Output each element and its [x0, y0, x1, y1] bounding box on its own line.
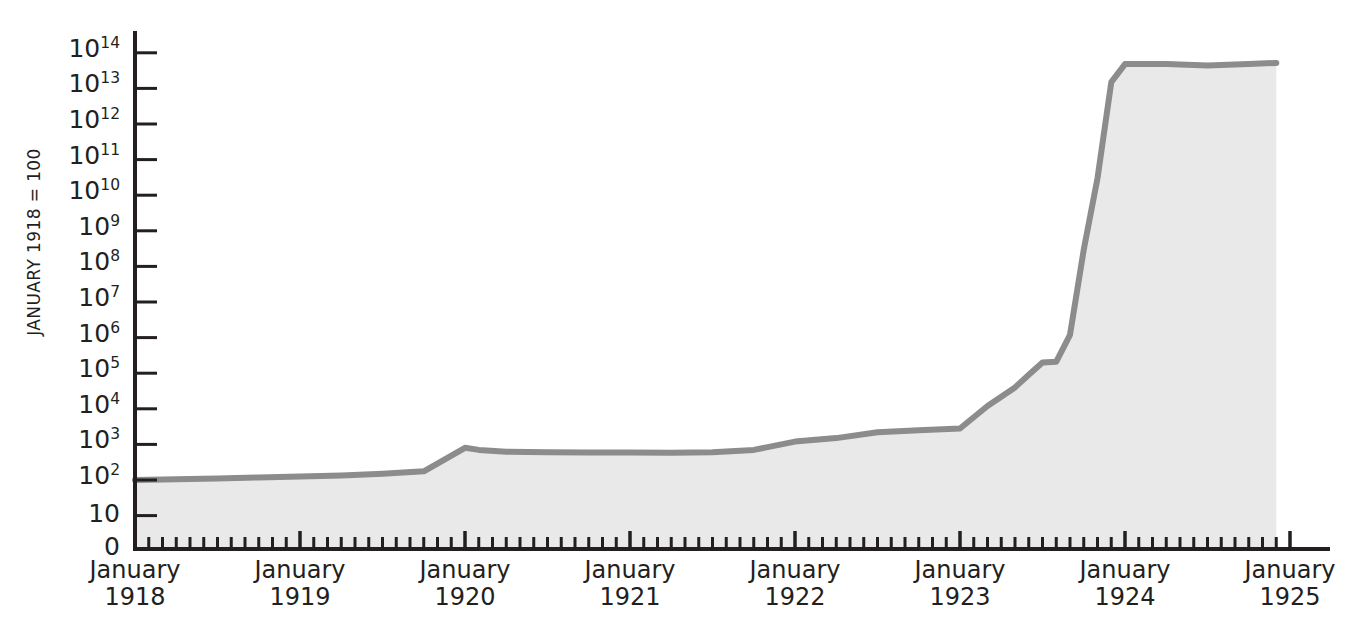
y-axis-tick-label: 109 — [0, 214, 120, 239]
x-axis-tick-label: January1918 — [45, 557, 225, 611]
x-tick-month: January — [1245, 556, 1336, 584]
x-axis-tick-label: January1920 — [375, 557, 555, 611]
x-tick-year: 1918 — [45, 584, 225, 611]
y-axis-tick-label: 1012 — [0, 107, 120, 132]
x-axis-tick-label: January1922 — [705, 557, 885, 611]
y-axis-tick-label: 104 — [0, 392, 120, 417]
chart-canvas — [0, 0, 1365, 634]
y-axis-tick-label: 1011 — [0, 143, 120, 168]
x-axis-tick-label: January1923 — [870, 557, 1050, 611]
y-axis-tick-label: 103 — [0, 427, 120, 452]
x-tick-month: January — [420, 556, 511, 584]
y-axis-tick-label: 107 — [0, 285, 120, 310]
y-axis-tick-label: 102 — [0, 463, 120, 488]
x-tick-month: January — [750, 556, 841, 584]
x-tick-month: January — [255, 556, 346, 584]
hyperinflation-chart: JANUARY 1918 = 100 010102103104105106107… — [0, 0, 1365, 634]
y-axis-tick-label: 10 — [0, 501, 120, 526]
x-axis-tick-label: January1919 — [210, 557, 390, 611]
x-tick-year: 1920 — [375, 584, 555, 611]
y-axis-tick-label: 1014 — [0, 36, 120, 61]
x-tick-year: 1923 — [870, 584, 1050, 611]
y-axis-tick-label: 105 — [0, 356, 120, 381]
x-tick-year: 1924 — [1035, 584, 1215, 611]
y-axis-tick-label: 108 — [0, 249, 120, 274]
y-axis-tick-label: 1010 — [0, 178, 120, 203]
x-tick-year: 1922 — [705, 584, 885, 611]
x-tick-year: 1925 — [1200, 584, 1365, 611]
x-axis-tick-label: January1925 — [1200, 557, 1365, 611]
x-tick-month: January — [915, 556, 1006, 584]
x-axis-tick-label: January1924 — [1035, 557, 1215, 611]
x-tick-month: January — [1080, 556, 1171, 584]
x-tick-year: 1919 — [210, 584, 390, 611]
x-tick-month: January — [90, 556, 181, 584]
x-axis-tick-label: January1921 — [540, 557, 720, 611]
y-axis-tick-label: 1013 — [0, 71, 120, 96]
x-tick-month: January — [585, 556, 676, 584]
y-axis-tick-label: 106 — [0, 321, 120, 346]
x-tick-year: 1921 — [540, 584, 720, 611]
